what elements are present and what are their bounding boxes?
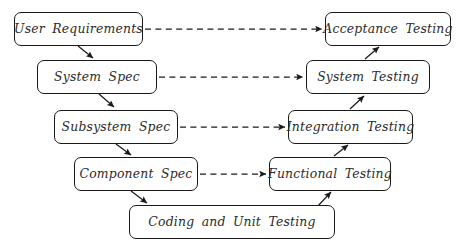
node-component-spec[interactable]: Component Spec [74,157,198,191]
node-coding-and-unit-testing[interactable]: Coding and Unit Testing [129,205,335,239]
node-label-component-spec: Component Spec [80,168,193,180]
node-user-requirements[interactable]: User Requirements [14,12,143,46]
node-label-acceptance-testing: Acceptance Testing [323,23,452,35]
solid-link-requirements-system-spec [78,46,93,58]
node-integration-testing[interactable]: Integration Testing [288,110,413,144]
solid-link-functional-integration [334,145,348,156]
node-system-spec[interactable]: System Spec [37,60,157,94]
node-label-system-testing: System Testing [317,71,419,83]
node-label-integration-testing: Integration Testing [287,121,415,133]
solid-link-subsystem-component [116,144,131,155]
node-label-system-spec: System Spec [54,71,140,83]
node-functional-testing[interactable]: Functional Testing [269,157,391,191]
node-subsystem-spec[interactable]: Subsystem Spec [54,110,178,144]
node-label-subsystem-spec: Subsystem Spec [62,121,171,133]
v-model-diagram: User Requirements Acceptance Testing Sys… [0,0,467,251]
solid-link-integration-system-testing [350,96,364,109]
node-system-testing[interactable]: System Testing [306,60,430,94]
solid-link-component-coding [131,191,147,203]
node-acceptance-testing[interactable]: Acceptance Testing [325,12,451,46]
node-label-functional-testing: Functional Testing [268,168,392,180]
node-label-coding-and-unit-testing: Coding and Unit Testing [148,216,315,228]
solid-link-system-spec-subsystem [99,94,114,107]
solid-link-system-testing-acceptance [365,47,379,59]
node-label-user-requirements: User Requirements [14,23,143,35]
